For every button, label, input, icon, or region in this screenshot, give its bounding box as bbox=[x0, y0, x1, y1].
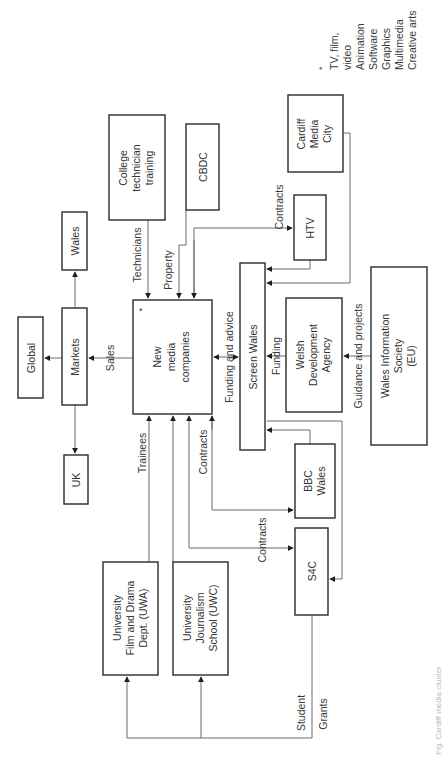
label-funding-advice: Funding and advice bbox=[223, 311, 235, 403]
svg-text:Dept. (UWA): Dept. (UWA) bbox=[137, 588, 149, 647]
legend-asterisk: * bbox=[317, 66, 327, 70]
node-htv: HTV bbox=[294, 195, 326, 260]
edge-htv-screenwales bbox=[267, 260, 310, 269]
svg-text:(EU): (EU) bbox=[405, 345, 417, 367]
svg-text:University: University bbox=[181, 594, 193, 641]
node-screen-wales: Screen Wales bbox=[240, 263, 265, 450]
svg-text:CBDC: CBDC bbox=[197, 152, 209, 182]
svg-text:Film and Drama: Film and Drama bbox=[124, 580, 136, 655]
diagram-canvas: Global Markets Wales UK College technici… bbox=[0, 0, 444, 757]
svg-text:video: video bbox=[341, 45, 353, 70]
svg-text:Screen Wales: Screen Wales bbox=[247, 325, 259, 390]
svg-text:University: University bbox=[111, 594, 123, 641]
node-university-film-drama: University Film and Drama Dept. (UWA) bbox=[103, 562, 158, 675]
label-guidance: Guidance and projects bbox=[352, 303, 364, 408]
svg-text:Agency: Agency bbox=[320, 337, 332, 373]
node-cardiff-media-city: Cardiff Media City bbox=[288, 95, 343, 172]
svg-text:Graphics: Graphics bbox=[380, 28, 392, 70]
svg-text:Journalism: Journalism bbox=[194, 592, 206, 643]
svg-text:Wales: Wales bbox=[315, 467, 327, 496]
edge-property bbox=[179, 210, 186, 298]
svg-text:technician: technician bbox=[130, 144, 142, 191]
svg-text:Creative arts: Creative arts bbox=[406, 10, 418, 70]
svg-text:training: training bbox=[143, 151, 155, 186]
svg-text:BBC: BBC bbox=[302, 470, 314, 492]
label-technicians: Technicians bbox=[131, 228, 143, 283]
svg-text:Media: Media bbox=[308, 120, 320, 149]
svg-text:Wales Information: Wales Information bbox=[379, 314, 391, 398]
svg-text:Software: Software bbox=[367, 28, 379, 70]
svg-text:Wales: Wales bbox=[69, 227, 81, 256]
svg-text:College: College bbox=[117, 150, 129, 186]
node-welsh-development-agency: Welsh Development Agency bbox=[286, 298, 342, 412]
label-student: Student bbox=[295, 695, 307, 731]
svg-text:media: media bbox=[165, 343, 177, 372]
label-trainees: Trainees bbox=[136, 433, 148, 473]
asterisk-marker: * bbox=[139, 306, 143, 316]
label-property: Property bbox=[162, 249, 174, 289]
label-contracts-htv: Contracts bbox=[273, 185, 285, 230]
label-grants: Grants bbox=[317, 698, 329, 730]
svg-text:City: City bbox=[321, 124, 333, 143]
svg-text:School (UWC): School (UWC) bbox=[207, 584, 219, 651]
node-global: Global bbox=[18, 317, 43, 398]
edge-bbc-screenwales bbox=[267, 430, 310, 444]
svg-text:Welsh: Welsh bbox=[294, 340, 306, 369]
node-wales: Wales bbox=[62, 212, 87, 270]
svg-text:companies: companies bbox=[179, 332, 191, 383]
svg-text:Development: Development bbox=[307, 324, 319, 386]
legend: * TV, film, video Animation Software Gra… bbox=[317, 10, 418, 70]
node-cbdc: CBDC bbox=[186, 124, 219, 210]
svg-text:Global: Global bbox=[25, 343, 37, 373]
node-s4c: S4C bbox=[295, 528, 328, 615]
svg-text:TV, film,: TV, film, bbox=[328, 32, 340, 70]
svg-text:Markets: Markets bbox=[69, 338, 81, 375]
svg-text:Multimedia: Multimedia bbox=[393, 19, 405, 70]
svg-text:Cardiff: Cardiff bbox=[295, 119, 307, 150]
node-university-journalism: University Journalism School (UWC) bbox=[173, 562, 228, 675]
svg-text:UK: UK bbox=[70, 473, 82, 488]
label-contracts-bbc: Contracts bbox=[197, 430, 209, 475]
figure-caption: Fig. Cardiff media cluster bbox=[434, 666, 443, 755]
node-markets: Markets bbox=[62, 308, 87, 405]
svg-text:Society: Society bbox=[392, 338, 404, 373]
label-funding: Funding bbox=[270, 337, 282, 375]
svg-text:S4C: S4C bbox=[306, 560, 318, 581]
node-wales-information-society: Wales Information Society (EU) bbox=[371, 267, 427, 445]
svg-text:New: New bbox=[151, 346, 163, 367]
svg-text:Animation: Animation bbox=[354, 23, 366, 70]
label-sales: Sales bbox=[104, 345, 116, 371]
svg-text:HTV: HTV bbox=[304, 218, 316, 239]
node-new-media-companies: New media companies * bbox=[133, 300, 212, 414]
label-contracts-s4c: Contracts bbox=[256, 518, 268, 563]
node-bbc-wales: BBC Wales bbox=[295, 444, 335, 518]
node-college-technician-training: College technician training bbox=[109, 115, 165, 220]
node-uk: UK bbox=[64, 455, 88, 504]
